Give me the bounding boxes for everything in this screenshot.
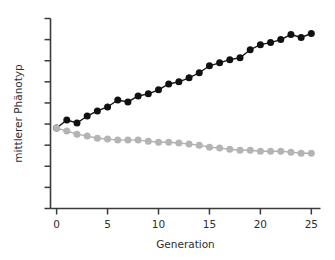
data-point <box>114 96 121 103</box>
series-markers-aufwaerts-selektierte-linie <box>53 30 315 132</box>
data-point <box>196 142 203 149</box>
data-point <box>257 41 264 48</box>
data-point <box>277 36 284 43</box>
data-point <box>124 98 131 105</box>
data-point <box>114 137 121 144</box>
data-point <box>247 46 254 53</box>
data-point <box>145 138 152 145</box>
data-point <box>135 92 142 99</box>
data-point <box>53 125 60 132</box>
data-point <box>84 133 91 140</box>
x-axis-tick-label-1: 5 <box>104 218 111 230</box>
data-point <box>63 117 70 124</box>
data-point <box>94 107 101 114</box>
data-point <box>267 39 274 46</box>
data-point <box>287 149 294 156</box>
y-axis-title: mittlerer Phänotyp <box>12 64 24 163</box>
data-point <box>237 54 244 61</box>
data-point <box>287 31 294 38</box>
data-point <box>267 148 274 155</box>
data-point <box>298 150 305 157</box>
data-point <box>84 113 91 120</box>
data-point <box>104 103 111 110</box>
x-axis-title: Generation <box>156 238 215 250</box>
data-point <box>226 146 233 153</box>
data-point <box>175 78 182 85</box>
data-point <box>308 30 315 37</box>
data-point <box>165 80 172 87</box>
data-point <box>206 144 213 151</box>
data-point <box>206 62 213 69</box>
data-point <box>155 86 162 93</box>
data-point <box>257 148 264 155</box>
data-point <box>73 131 80 138</box>
data-point <box>247 147 254 154</box>
x-axis-tick-label-4: 20 <box>254 218 267 230</box>
data-point <box>165 139 172 146</box>
data-point <box>94 135 101 142</box>
data-point <box>124 137 131 144</box>
data-point <box>186 74 193 81</box>
data-point <box>277 148 284 155</box>
data-point <box>63 128 70 135</box>
data-point <box>155 139 162 146</box>
chart-container: 0510152025Generationmittlerer Phänotyp <box>0 0 335 260</box>
data-point <box>104 136 111 143</box>
data-point <box>237 147 244 154</box>
x-axis-tick-label-2: 10 <box>152 218 165 230</box>
data-point <box>145 90 152 97</box>
data-point <box>216 59 223 66</box>
data-point <box>216 145 223 152</box>
line-chart: 0510152025Generationmittlerer Phänotyp <box>0 0 335 260</box>
data-point <box>135 137 142 144</box>
data-point <box>73 120 80 127</box>
data-point <box>226 56 233 63</box>
series-line-aufwaerts-selektierte-linie <box>57 33 312 128</box>
x-axis-tick-label-0: 0 <box>53 218 60 230</box>
data-point <box>196 69 203 76</box>
x-axis-tick-label-5: 25 <box>305 218 318 230</box>
data-point <box>186 141 193 148</box>
data-point <box>298 34 305 41</box>
data-point <box>308 150 315 157</box>
data-point <box>175 140 182 147</box>
x-axis-tick-label-3: 15 <box>203 218 216 230</box>
